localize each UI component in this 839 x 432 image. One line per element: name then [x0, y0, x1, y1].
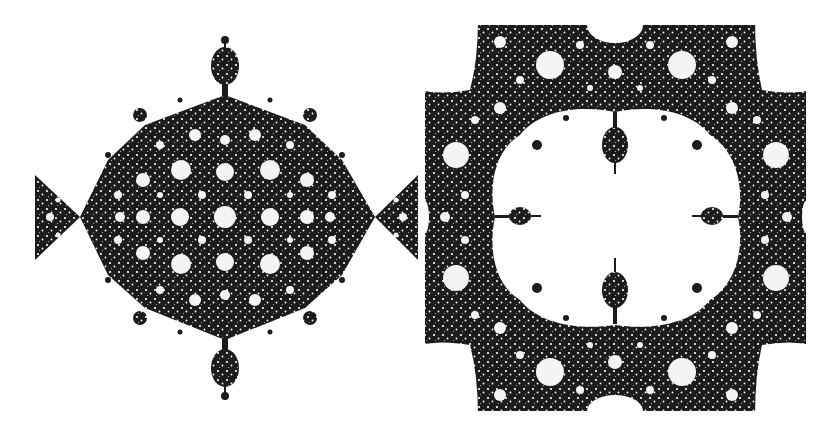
right-fractal-panel: [420, 7, 812, 427]
top-bulb: [211, 47, 239, 85]
fractal-figure: [0, 0, 839, 432]
right-side-lobe: [375, 175, 418, 260]
bottom-bulb: [211, 349, 239, 387]
left-fractal-panel: [35, 36, 418, 400]
left-side-lobe: [35, 175, 80, 260]
figure: [0, 0, 839, 432]
